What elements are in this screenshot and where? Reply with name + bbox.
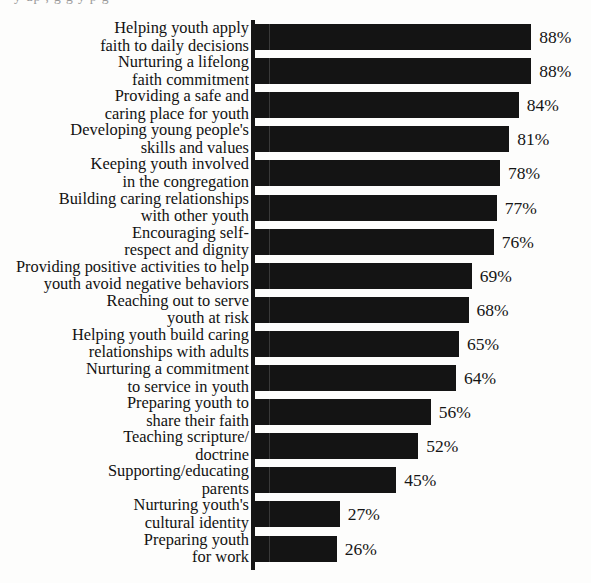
bar — [255, 24, 531, 50]
bar-row: Developing young people's skills and val… — [0, 122, 591, 156]
category-label: Helping youth apply faith to daily decis… — [100, 19, 249, 54]
bar — [255, 331, 459, 357]
category-label: Building caring relationships with other… — [59, 190, 249, 225]
bar-row: Providing positive activities to help yo… — [0, 259, 591, 293]
bar — [255, 263, 472, 289]
bar-row: Providing a safe and caring place for yo… — [0, 88, 591, 122]
bar-chart-plot-area: Helping youth apply faith to daily decis… — [0, 0, 591, 583]
category-label: Encouraging self- respect and dignity — [124, 224, 249, 259]
bar-row: Supporting/educating parents45% — [0, 463, 591, 497]
bar — [255, 536, 337, 562]
category-label: Providing a safe and caring place for yo… — [105, 88, 249, 123]
bar-row: Encouraging self- respect and dignity76% — [0, 225, 591, 259]
bar-value-label: 56% — [439, 403, 471, 421]
bar-row: Keeping youth involved in the congregati… — [0, 156, 591, 190]
category-label: Keeping youth involved in the congregati… — [91, 156, 249, 191]
bar-row: Nurturing a commitment to service in you… — [0, 361, 591, 395]
bar-value-label: 52% — [426, 437, 458, 455]
category-label: Developing young people's skills and val… — [70, 122, 249, 157]
category-label: Teaching scripture/ doctrine — [123, 429, 249, 464]
bar-value-label: 88% — [539, 62, 571, 80]
category-label: Preparing youth for work — [144, 531, 249, 566]
bar — [255, 195, 497, 221]
bar — [255, 501, 340, 527]
bar-row: Nurturing a lifelong faith commitment88% — [0, 54, 591, 88]
bar — [255, 160, 500, 186]
bar-row: Teaching scripture/ doctrine52% — [0, 429, 591, 463]
bar-chart-page: y up , g g y p g Helping youth apply fai… — [0, 0, 591, 583]
category-label: Reaching out to serve youth at risk — [107, 292, 249, 327]
bar — [255, 92, 519, 118]
bar-row: Helping youth apply faith to daily decis… — [0, 20, 591, 54]
category-label: Nurturing a commitment to service in you… — [86, 360, 249, 395]
bar-row: Preparing youth to share their faith56% — [0, 395, 591, 429]
bar-value-label: 68% — [477, 301, 509, 319]
bar — [255, 126, 509, 152]
bar — [255, 433, 418, 459]
bar-value-label: 76% — [502, 233, 534, 251]
bar-value-label: 26% — [345, 540, 377, 558]
bar — [255, 399, 431, 425]
category-label: Providing positive activities to help yo… — [16, 258, 249, 293]
bar — [255, 365, 456, 391]
bar-value-label: 84% — [527, 96, 559, 114]
bar-value-label: 81% — [517, 130, 549, 148]
category-label: Supporting/educating parents — [108, 463, 249, 498]
bar-value-label: 78% — [508, 164, 540, 182]
category-label: Nurturing a lifelong faith commitment — [118, 54, 249, 89]
bar-row: Nurturing youth's cultural identity27% — [0, 497, 591, 531]
bar-row: Reaching out to serve youth at risk68% — [0, 293, 591, 327]
bar-value-label: 45% — [404, 471, 436, 489]
bar-value-label: 69% — [480, 267, 512, 285]
category-label: Nurturing youth's cultural identity — [134, 497, 249, 532]
bar-value-label: 65% — [467, 335, 499, 353]
bar-value-label: 88% — [539, 28, 571, 46]
bar — [255, 58, 531, 84]
bar — [255, 297, 469, 323]
category-label: Helping youth build caring relationships… — [72, 326, 249, 361]
bar-value-label: 64% — [464, 369, 496, 387]
bar-row: Helping youth build caring relationships… — [0, 327, 591, 361]
bar — [255, 467, 396, 493]
bar-value-label: 77% — [505, 199, 537, 217]
bar-row: Building caring relationships with other… — [0, 191, 591, 225]
bar — [255, 229, 494, 255]
bar-value-label: 27% — [348, 505, 380, 523]
bar-row: Preparing youth for work26% — [0, 532, 591, 566]
category-label: Preparing youth to share their faith — [127, 395, 249, 430]
